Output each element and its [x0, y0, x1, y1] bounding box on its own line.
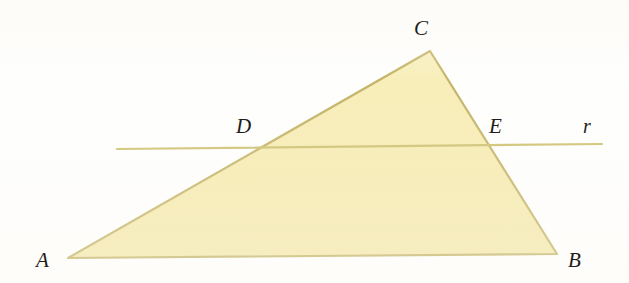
intersection-label-e: E — [489, 116, 502, 137]
vertex-label-b: B — [568, 250, 581, 271]
geometry-canvas — [0, 0, 629, 283]
triangle-abc — [68, 51, 557, 258]
geometry-figure: A B C D E r — [0, 0, 629, 283]
vertex-label-a: A — [36, 250, 49, 271]
vertex-label-c: C — [414, 18, 428, 39]
line-label-r: r — [583, 116, 591, 136]
intersection-label-d: D — [236, 116, 251, 137]
